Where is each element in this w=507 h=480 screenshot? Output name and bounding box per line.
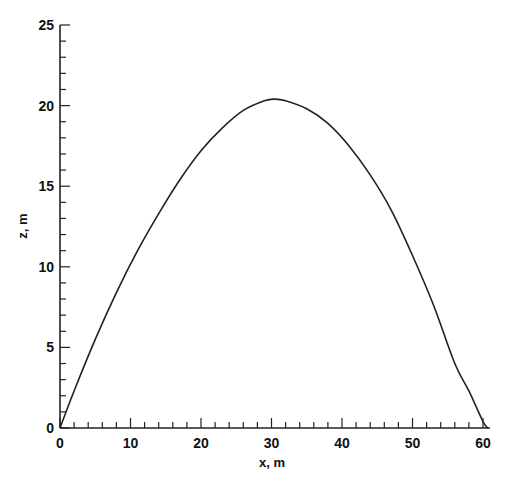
y-tick-label: 15	[38, 178, 54, 194]
trajectory-chart: 01020304050600510152025 x, m z, m	[0, 0, 507, 480]
y-tick-label: 5	[46, 339, 54, 355]
x-axis-label: x, m	[259, 455, 285, 470]
x-tick-label: 40	[334, 435, 350, 451]
x-tick-label: 30	[264, 435, 280, 451]
axes	[60, 25, 490, 428]
x-tick-label: 10	[123, 435, 139, 451]
x-tick-label: 20	[193, 435, 209, 451]
x-tick-label: 50	[405, 435, 421, 451]
x-tick-label: 60	[475, 435, 491, 451]
y-axis-label: z, m	[15, 213, 30, 238]
y-tick-label: 25	[38, 17, 54, 33]
ticks	[60, 25, 483, 428]
y-tick-label: 20	[38, 98, 54, 114]
trajectory-curve	[60, 99, 488, 428]
y-tick-label: 0	[46, 420, 54, 436]
tick-labels: 01020304050600510152025	[38, 17, 491, 451]
y-tick-label: 10	[38, 259, 54, 275]
x-tick-label: 0	[56, 435, 64, 451]
